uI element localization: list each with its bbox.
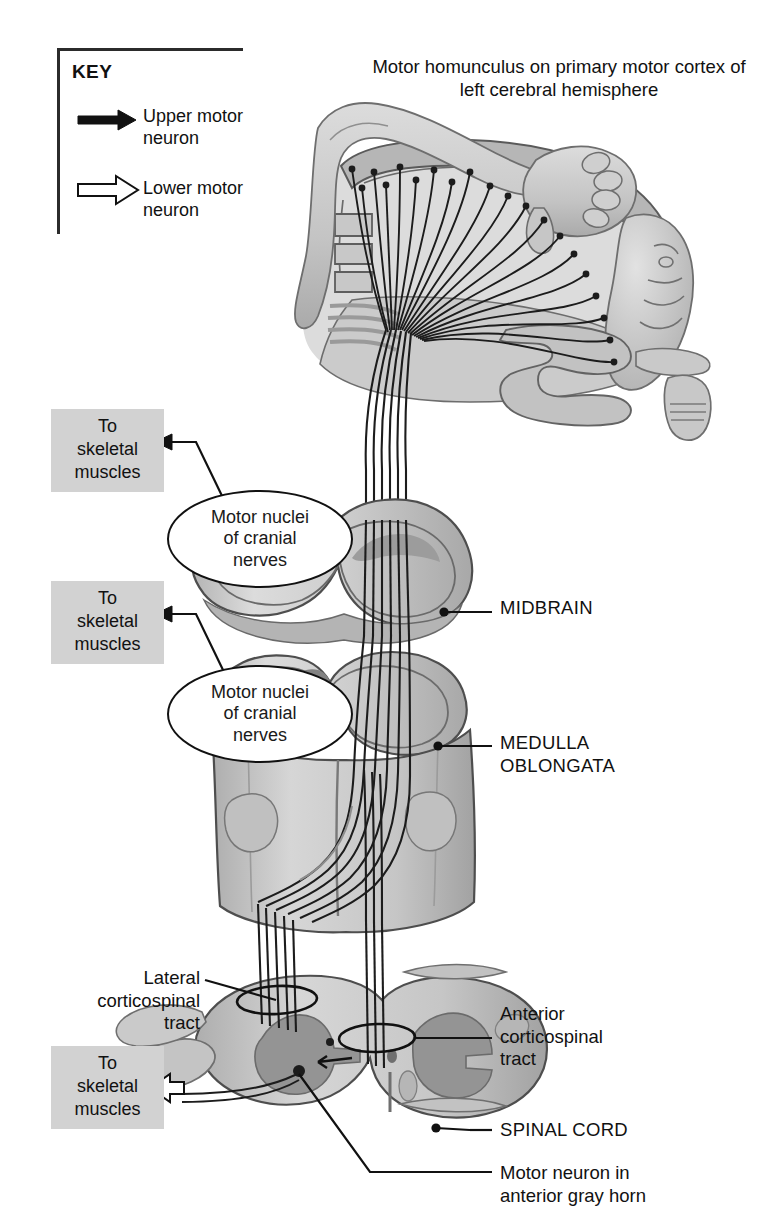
label-spinal-cord: SPINAL CORD [500, 1119, 628, 1142]
label-motor-neuron-anterior-gray-horn: Motor neuron in anterior gray horn [500, 1162, 646, 1207]
key-heading: KEY [72, 60, 112, 83]
label-medulla-oblongata: MEDULLA OBLONGATA [500, 732, 615, 777]
posterior-root-ridge [404, 965, 506, 979]
to-skeletal-muscles-box-2: To skeletal muscles [51, 581, 164, 664]
motor-pathway-figure: KEY Upper motor neuron Lower motor neuro… [0, 0, 761, 1228]
callout-motor-nuclei-midbrain: Motor nuclei of cranial nerves [167, 490, 353, 588]
leader-muscle-box-2 [155, 606, 224, 672]
leader-spinal-cord-label [431, 1123, 492, 1132]
homunculus-larynx [664, 375, 710, 440]
callout-motor-nuclei-medulla: Motor nuclei of cranial nerves [167, 665, 353, 763]
to-skeletal-muscles-box-1: To skeletal muscles [51, 409, 164, 492]
gray-matter-right [413, 1013, 492, 1098]
figure-title: Motor homunculus on primary motor cortex… [368, 56, 750, 101]
label-midbrain: MIDBRAIN [500, 597, 593, 620]
label-lateral-corticospinal-tract: Lateral corticospinal tract [20, 967, 200, 1035]
key-item-upper-motor-neuron-label: Upper motor neuron [143, 106, 243, 150]
leader-muscle-box-1 [155, 434, 224, 500]
homunculus-tongue [636, 349, 710, 376]
interneuron-dot [326, 1038, 334, 1046]
key-item-lower-motor-neuron-label: Lower motor neuron [143, 178, 243, 222]
label-anterior-corticospinal-tract: Anterior corticospinal tract [500, 1003, 603, 1071]
cerebral-hemisphere-group [295, 103, 711, 440]
white-matter-detail-2 [399, 1071, 417, 1101]
to-skeletal-muscles-box-3: To skeletal muscles [51, 1046, 164, 1129]
olive-left [224, 794, 277, 852]
olive-right [405, 792, 456, 851]
